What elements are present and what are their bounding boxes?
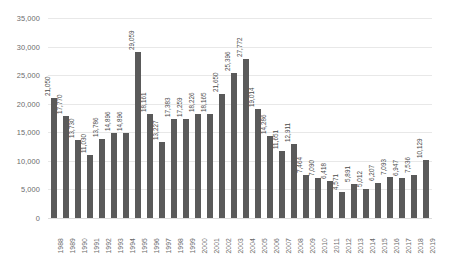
bar[interactable] xyxy=(51,98,57,218)
bar[interactable] xyxy=(171,119,177,218)
x-axis-column: 1992 xyxy=(96,238,108,276)
bar[interactable] xyxy=(411,175,417,218)
bar-value-label: 14,896 xyxy=(104,111,111,131)
bar-value-label: 21,050 xyxy=(44,76,51,96)
bar-value-label: 18,161 xyxy=(140,93,147,113)
x-axis-column: 1993 xyxy=(108,238,120,276)
bar-value-label: 11,030 xyxy=(80,134,87,153)
bar-column: 10,129 xyxy=(420,18,432,218)
bar-value-label: 6,418 xyxy=(320,163,327,179)
bar[interactable] xyxy=(135,52,141,218)
x-axis-column: 1996 xyxy=(144,238,156,276)
bar-column: 18,226 xyxy=(192,18,204,218)
bar[interactable] xyxy=(315,178,321,219)
bar[interactable] xyxy=(375,183,381,218)
x-axis-column: 2002 xyxy=(216,238,228,276)
x-axis-column: 1999 xyxy=(180,238,192,276)
x-axis-column: 2008 xyxy=(288,238,300,276)
x-axis-column: 2004 xyxy=(240,238,252,276)
x-axis-column: 2019 xyxy=(420,238,432,276)
x-axis-column: 1990 xyxy=(72,238,84,276)
axis-baseline xyxy=(48,218,432,219)
bar-column: 6,947 xyxy=(396,18,408,218)
bar[interactable] xyxy=(339,192,345,218)
y-axis-tick-label: 35,000 xyxy=(17,14,40,23)
bar[interactable] xyxy=(387,177,393,218)
bar-series: 21,05017,77013,73011,03013,78614,89614,8… xyxy=(48,18,432,218)
bar-column: 18,165 xyxy=(204,18,216,218)
x-axis: 1988198919901991199219931994199519961997… xyxy=(48,238,432,276)
bar[interactable] xyxy=(363,189,369,218)
bar-value-label: 5,012 xyxy=(356,171,363,187)
bar-column: 6,207 xyxy=(372,18,384,218)
bar-value-label: 11,651 xyxy=(272,130,279,149)
bar[interactable] xyxy=(231,73,237,218)
bar-column: 4,571 xyxy=(336,18,348,218)
x-axis-column: 2009 xyxy=(300,238,312,276)
bar-value-label: 6,947 xyxy=(392,160,399,176)
bar-value-label: 27,772 xyxy=(236,38,243,58)
bar[interactable] xyxy=(423,160,429,218)
bar-column: 13,227 xyxy=(156,18,168,218)
bar[interactable] xyxy=(351,184,357,218)
bar[interactable] xyxy=(99,139,105,218)
bar[interactable] xyxy=(243,59,249,218)
bar-column: 5,012 xyxy=(360,18,372,218)
bar-column: 21,650 xyxy=(216,18,228,218)
bar[interactable] xyxy=(291,144,297,218)
bar[interactable] xyxy=(303,175,309,218)
y-axis: 35,00030,00025,00020,00015,00010,0005,00… xyxy=(0,18,44,218)
bar-value-label: 18,165 xyxy=(200,93,207,113)
y-axis-tick-label: 30,000 xyxy=(17,42,40,51)
x-axis-tick-label: 2019 xyxy=(429,238,436,254)
bar-value-label: 25,396 xyxy=(224,51,231,71)
bar-column: 7,093 xyxy=(384,18,396,218)
bar[interactable] xyxy=(183,119,189,218)
bar[interactable] xyxy=(123,133,129,218)
x-axis-column: 1995 xyxy=(132,238,144,276)
bar-value-label: 7,464 xyxy=(296,157,303,173)
x-axis-column: 1991 xyxy=(84,238,96,276)
x-axis-column: 2010 xyxy=(312,238,324,276)
x-axis-column: 2018 xyxy=(408,238,420,276)
bar[interactable] xyxy=(399,178,405,218)
bar-value-label: 13,786 xyxy=(92,118,99,138)
y-axis-tick-label: 0 xyxy=(36,214,40,223)
bar-value-label: 13,227 xyxy=(152,121,159,141)
bar-value-label: 6,207 xyxy=(368,165,375,181)
bar-column: 12,911 xyxy=(288,18,300,218)
bar[interactable] xyxy=(87,155,93,218)
bar-column: 7,090 xyxy=(312,18,324,218)
bar[interactable] xyxy=(219,94,225,218)
x-axis-column: 2003 xyxy=(228,238,240,276)
y-axis-tick-label: 15,000 xyxy=(17,128,40,137)
x-axis-column: 2000 xyxy=(192,238,204,276)
bar[interactable] xyxy=(195,114,201,218)
x-axis-column: 2007 xyxy=(276,238,288,276)
bar[interactable] xyxy=(207,114,213,218)
bar-value-label: 17,259 xyxy=(176,98,183,118)
bar-value-label: 7,090 xyxy=(308,159,315,175)
bar-value-label: 14,896 xyxy=(116,111,123,131)
bar-column: 17,259 xyxy=(180,18,192,218)
bar[interactable] xyxy=(279,151,285,218)
x-axis-column: 2005 xyxy=(252,238,264,276)
y-axis-tick-label: 25,000 xyxy=(17,71,40,80)
x-axis-column: 2014 xyxy=(360,238,372,276)
bar[interactable] xyxy=(159,142,165,218)
x-axis-column: 1998 xyxy=(168,238,180,276)
bar-value-label: 21,650 xyxy=(212,73,219,93)
y-axis-tick-label: 10,000 xyxy=(17,156,40,165)
x-axis-column: 2006 xyxy=(264,238,276,276)
bar-column: 7,464 xyxy=(300,18,312,218)
bar-column: 7,536 xyxy=(408,18,420,218)
bar-column: 5,891 xyxy=(348,18,360,218)
x-axis-column: 1988 xyxy=(48,238,60,276)
bar-value-label: 7,093 xyxy=(380,159,387,175)
bar-value-label: 18,226 xyxy=(188,92,195,112)
bar-column: 13,730 xyxy=(72,18,84,218)
bar-value-label: 10,129 xyxy=(416,139,423,159)
bar[interactable] xyxy=(111,133,117,218)
bar-column: 27,772 xyxy=(240,18,252,218)
bar-value-label: 5,891 xyxy=(344,166,351,182)
